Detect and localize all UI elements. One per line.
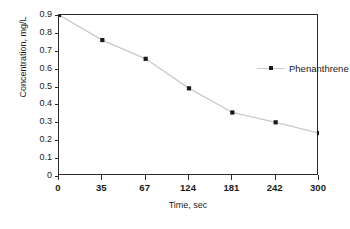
x-tick-label: 124 (168, 182, 208, 193)
x-axis-tick-labels: 03567124181242300 (58, 182, 318, 196)
y-tick-label: 0.8 (22, 27, 52, 37)
y-tick-label: 0.1 (22, 152, 52, 162)
y-tick-label: 0.6 (22, 63, 52, 73)
data-point (144, 57, 148, 61)
x-axis-title: Time, sec (58, 200, 318, 210)
x-tick-mark (275, 175, 276, 180)
x-axis-tick-marks (58, 175, 318, 181)
y-tick-mark (55, 122, 59, 123)
legend-label-phenanthrene: Phenanthrene (289, 63, 349, 74)
legend-line-swatch (257, 68, 285, 69)
data-point (230, 110, 234, 114)
data-point (274, 120, 278, 124)
data-point (100, 38, 104, 42)
y-tick-label: 0.4 (22, 98, 52, 108)
x-tick-mark (188, 175, 189, 180)
series-plot (59, 15, 319, 176)
y-tick-mark (55, 51, 59, 52)
x-tick-label: 242 (255, 182, 295, 193)
x-tick-mark (145, 175, 146, 180)
plot-area: Phenanthrene (58, 14, 318, 175)
x-tick-label: 300 (298, 182, 338, 193)
y-tick-mark (55, 33, 59, 34)
chart-figure: Concentration, mg/L 0.90.80.70.60.50.40.… (0, 0, 350, 229)
data-line-phenanthrene (59, 15, 319, 133)
y-axis-tick-labels: 0.90.80.70.60.50.40.30.20.10 (22, 14, 52, 175)
x-tick-mark (231, 175, 232, 180)
data-point (317, 131, 319, 135)
data-point-markers (59, 15, 319, 135)
data-point (59, 15, 61, 17)
legend-marker-icon (269, 66, 273, 70)
x-tick-mark (318, 175, 319, 180)
y-tick-label: 0.9 (22, 9, 52, 19)
x-tick-mark (101, 175, 102, 180)
x-tick-label: 35 (81, 182, 121, 193)
y-tick-label: 0.3 (22, 116, 52, 126)
y-tick-label: 0.2 (22, 134, 52, 144)
y-tick-mark (55, 158, 59, 159)
x-tick-label: 67 (125, 182, 165, 193)
data-point (187, 86, 191, 90)
y-tick-mark (55, 69, 59, 70)
y-tick-label: 0.5 (22, 81, 52, 91)
x-tick-label: 0 (38, 182, 78, 193)
y-tick-mark (55, 140, 59, 141)
y-tick-mark (55, 87, 59, 88)
y-tick-label: 0.7 (22, 45, 52, 55)
x-tick-label: 181 (211, 182, 251, 193)
y-tick-label: 0 (22, 170, 52, 180)
x-tick-mark (58, 175, 59, 180)
y-tick-mark (55, 104, 59, 105)
y-tick-mark (55, 15, 59, 16)
legend: Phenanthrene (257, 63, 349, 74)
